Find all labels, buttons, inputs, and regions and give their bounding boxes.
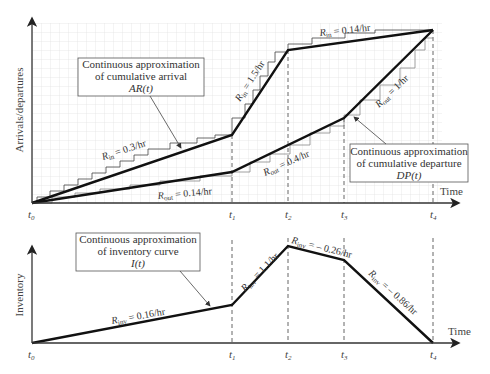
bottom-chart: Inventory Time t0 t1 t2 t3 t4 Continuous… [13, 233, 471, 362]
arrival-callout-line2: of cumulative arrival [95, 70, 187, 82]
tick-t4-bottom: t4 [430, 348, 437, 362]
inventory-diagram: Arrivals/departures Time t0 t1 t2 t3 t4 … [0, 0, 490, 374]
tick-t3-bottom: t3 [341, 348, 348, 362]
inventory-callout-line1: Continuous approximation [79, 233, 197, 245]
tick-t2-bottom: t2 [285, 348, 292, 362]
rate-label-rinv-2: Rinv = 1.1/hr [238, 250, 283, 296]
tick-t3: t3 [341, 208, 348, 222]
tick-t1: t1 [229, 208, 236, 222]
inventory-callout: Continuous approximation of inventory cu… [76, 233, 210, 306]
inventory-callout-line2: of inventory curve [97, 245, 178, 257]
rate-label-rinv-4: Rinv = – 0.86/hr [365, 267, 421, 319]
tick-t2: t2 [285, 208, 292, 222]
tick-t0: t0 [28, 208, 35, 222]
rate-label-rinv-1: Rinv = 0.16/hr [109, 306, 166, 329]
tick-t1-bottom: t1 [229, 348, 236, 362]
departure-callout-line2: of cumulative departure [356, 157, 461, 169]
tick-t4: t4 [430, 208, 437, 222]
tick-labels-bottom: t0 t1 t2 t3 t4 [28, 348, 437, 362]
inventory-callout-pointer [180, 271, 210, 306]
y-axis-title-bottom: Inventory [13, 273, 25, 316]
tick-labels: t0 t1 t2 t3 t4 [28, 208, 437, 222]
inventory-callout-line3: I(t) [130, 257, 145, 270]
y-axis-title: Arrivals/departures [13, 68, 25, 153]
departure-callout-line3: DP(t) [395, 169, 421, 182]
x-axis-title-bottom: Time [448, 325, 471, 337]
departure-callout-line1: Continuous approximation [350, 145, 468, 157]
tick-t0-bottom: t0 [28, 348, 35, 362]
arrival-callout-line3: AR(t) [128, 82, 153, 95]
arrival-callout-line1: Continuous approximation [82, 58, 200, 70]
x-axis-title: Time [440, 185, 463, 197]
top-chart: Arrivals/departures Time t0 t1 t2 t3 t4 … [13, 19, 468, 222]
